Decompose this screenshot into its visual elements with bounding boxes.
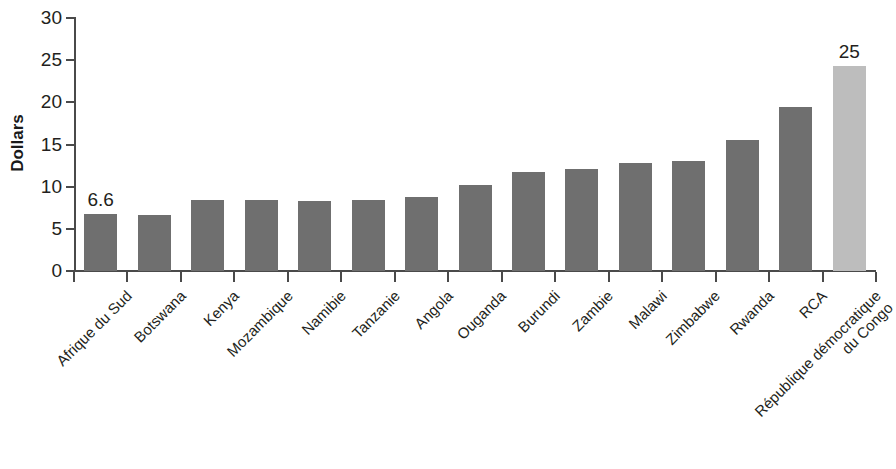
y-axis-tick	[66, 144, 75, 146]
y-axis-tick-label: 0	[18, 261, 62, 281]
bar	[619, 163, 652, 271]
bar-value-label: 6.6	[74, 190, 127, 209]
bar-fill	[84, 214, 117, 271]
bar-fill	[619, 163, 652, 271]
bar-fill	[191, 200, 224, 271]
x-axis-tick	[73, 272, 75, 282]
y-axis-tick-label: 15	[18, 135, 62, 155]
x-axis-category-label: Afrique du Sud	[0, 287, 135, 469]
y-axis-tick	[66, 228, 75, 230]
bar	[245, 200, 278, 271]
bar-fill	[138, 215, 171, 272]
bar	[726, 140, 759, 271]
bar-fill	[352, 200, 385, 271]
bar	[298, 201, 331, 271]
bar	[191, 200, 224, 271]
y-axis-tick	[66, 186, 75, 188]
x-axis-tick	[126, 272, 128, 282]
bar-fill	[565, 169, 598, 271]
x-axis-tick	[875, 272, 877, 282]
bar-fill	[672, 161, 705, 271]
x-axis-tick	[554, 272, 556, 282]
y-axis-tick	[66, 17, 75, 19]
bar-fill	[726, 140, 759, 271]
bar	[405, 197, 438, 271]
bar	[779, 107, 812, 271]
x-axis-tick	[661, 272, 663, 282]
bar	[459, 185, 492, 271]
bar	[833, 66, 866, 271]
y-axis-tick-label: 25	[18, 50, 62, 70]
bar-fill	[833, 66, 866, 271]
x-axis-tick	[233, 272, 235, 282]
bar-fill	[512, 172, 545, 271]
bar	[672, 161, 705, 271]
y-axis-tick-label: 30	[18, 8, 62, 28]
bar-fill	[459, 185, 492, 271]
x-axis-tick	[287, 272, 289, 282]
y-axis-tick-label: 5	[18, 219, 62, 239]
bar-fill	[298, 201, 331, 271]
bar	[138, 215, 171, 272]
x-axis-tick	[340, 272, 342, 282]
x-axis-tick	[768, 272, 770, 282]
bar-fill	[779, 107, 812, 271]
bar	[352, 200, 385, 271]
bar	[512, 172, 545, 271]
bar	[565, 169, 598, 271]
x-axis-tick	[822, 272, 824, 282]
bar-fill	[405, 197, 438, 271]
x-axis-tick	[180, 272, 182, 282]
bar	[84, 214, 117, 271]
x-axis-tick	[715, 272, 717, 282]
x-axis-tick	[501, 272, 503, 282]
x-axis-tick	[608, 272, 610, 282]
y-axis-tick-label: 20	[18, 92, 62, 112]
y-axis-tick	[66, 101, 75, 103]
bar-fill	[245, 200, 278, 271]
bar-value-label: 25	[823, 42, 876, 61]
y-axis-tick	[66, 59, 75, 61]
y-axis-tick-label: 10	[18, 177, 62, 197]
x-axis-tick	[447, 272, 449, 282]
x-axis-tick	[394, 272, 396, 282]
